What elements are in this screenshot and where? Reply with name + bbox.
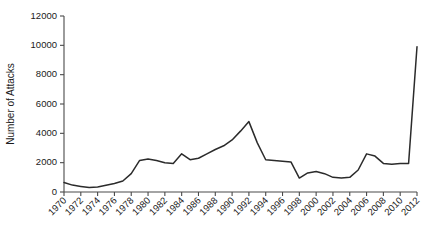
x-axis: 1970197219741976197819801982198419861988…: [46, 192, 422, 217]
data-series-attacks: [64, 47, 417, 188]
y-axis-title: Number of Attacks: [5, 63, 16, 145]
y-tick-label: 8000: [36, 68, 57, 79]
y-tick-label: 2000: [36, 156, 57, 167]
y-tick-label: 4000: [36, 127, 57, 138]
chart-figure: 020004000600080001000012000 197019721974…: [0, 0, 446, 247]
x-tick-label: 2012: [399, 195, 422, 218]
y-tick-label: 0: [52, 186, 57, 197]
y-tick-label: 12000: [31, 10, 57, 21]
y-axis: 020004000600080001000012000: [31, 10, 64, 197]
y-tick-label: 10000: [31, 39, 57, 50]
line-chart: 020004000600080001000012000 197019721974…: [0, 0, 446, 247]
y-tick-label: 6000: [36, 98, 57, 109]
